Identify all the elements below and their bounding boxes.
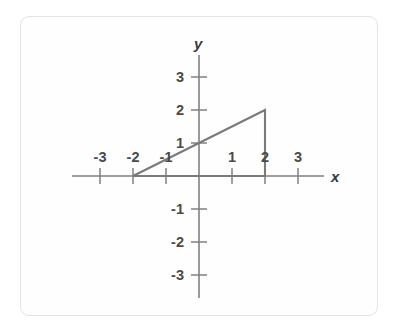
figure-root: -3 -2 -1 1 2 3 3 2 1 -1 -2 -3 x y (0, 0, 400, 332)
x-tick-label-1: 1 (223, 150, 241, 165)
y-tick-label-2: 2 (164, 103, 184, 118)
y-tick-label-3: 3 (164, 70, 184, 85)
x-tick-label-2: 2 (256, 150, 274, 165)
y-tick-label--3: -3 (158, 268, 184, 283)
x-tick-label--2: -2 (123, 150, 143, 165)
y-axis-label: y (194, 36, 202, 51)
y-tick-label--2: -2 (158, 235, 184, 250)
x-axis-label: x (331, 169, 339, 184)
x-tick-label--3: -3 (90, 150, 110, 165)
y-tick-label--1: -1 (158, 202, 184, 217)
y-tick-label-1: 1 (164, 136, 184, 151)
x-tick-label-3: 3 (289, 150, 307, 165)
x-tick-label--1: -1 (156, 150, 176, 165)
